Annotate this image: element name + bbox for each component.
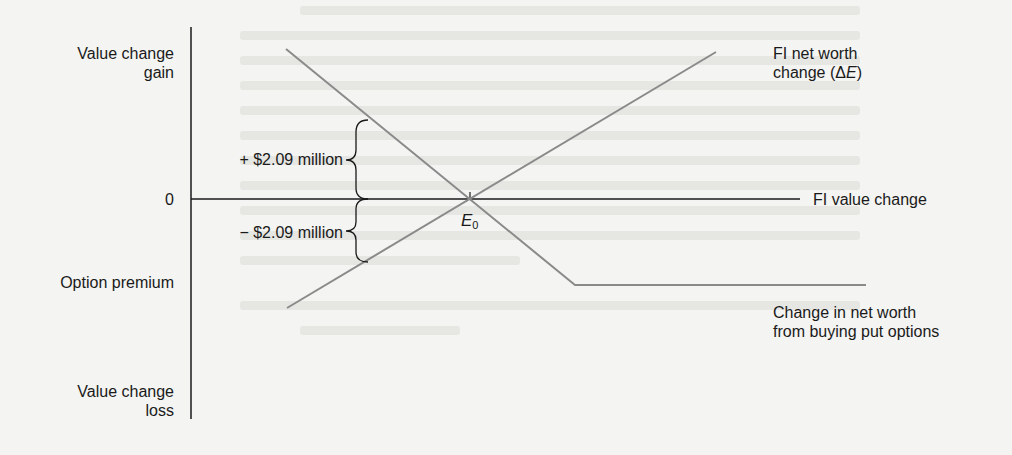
minus-brace-label: − $2.09 million (239, 223, 343, 242)
x-axis-label: FI value change (813, 190, 927, 209)
y-premium-label: Option premium (60, 273, 174, 292)
net-worth-line (287, 52, 716, 308)
put-series-label: Change in net worth from buying put opti… (773, 303, 939, 341)
y-zero-label: 0 (165, 190, 174, 209)
plus-brace-label: + $2.09 million (239, 150, 343, 169)
y-gain-label: Value change gain (77, 44, 174, 82)
plus-brace (346, 120, 368, 199)
put-option-line (286, 49, 866, 285)
e0-label: E0 (461, 211, 478, 235)
net-worth-series-label: FI net worth change (ΔE) (773, 44, 862, 82)
y-loss-label: Value change loss (77, 382, 174, 420)
minus-brace (346, 199, 368, 262)
